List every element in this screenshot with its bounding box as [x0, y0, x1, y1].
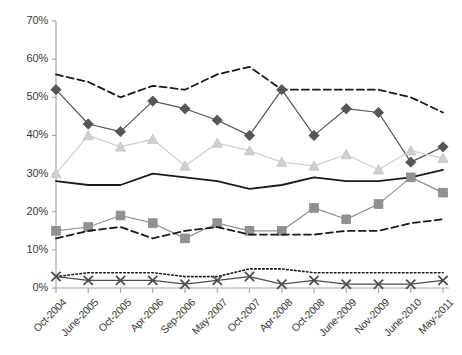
data-point-triangle [341, 149, 351, 158]
data-point-square [181, 234, 190, 243]
y-axis-tick-label: 0% [14, 281, 48, 293]
data-point-square [406, 173, 415, 182]
y-axis-tick-label: 30% [14, 167, 48, 179]
line-chart: 0%10%20%30%40%50%60%70% Oct-2004June-200… [0, 0, 462, 355]
y-axis-tick-label: 40% [14, 128, 48, 140]
data-point-triangle [212, 138, 222, 147]
data-point-triangle [83, 130, 93, 139]
data-point-diamond [277, 84, 287, 94]
data-point-diamond [406, 157, 416, 167]
data-point-square [310, 204, 319, 213]
data-point-triangle [406, 145, 416, 154]
data-point-diamond [438, 142, 448, 152]
data-point-triangle [148, 134, 158, 143]
data-point-diamond [373, 107, 383, 117]
data-point-square [439, 188, 448, 197]
data-point-diamond [244, 130, 254, 140]
y-axis-tick-label: 10% [14, 243, 48, 255]
data-point-square [148, 219, 157, 228]
y-axis-tick-label: 70% [14, 14, 48, 26]
data-point-diamond [180, 104, 190, 114]
series-line [56, 170, 443, 189]
data-point-triangle [373, 165, 383, 174]
y-axis-tick-label: 60% [14, 52, 48, 64]
plot-area [0, 0, 462, 355]
series-3 [56, 170, 443, 189]
series-4 [52, 173, 448, 243]
y-axis-tick-label: 20% [14, 205, 48, 217]
data-point-square [116, 211, 125, 220]
data-point-square [52, 226, 61, 235]
data-point-square [342, 215, 351, 224]
series-line [56, 67, 443, 113]
series-0 [56, 67, 443, 113]
legend-strip [40, 344, 430, 352]
y-axis-tick-label: 50% [14, 90, 48, 102]
data-point-square [374, 200, 383, 209]
series-7 [51, 272, 447, 289]
data-point-diamond [212, 115, 222, 125]
data-point-triangle [277, 157, 287, 166]
